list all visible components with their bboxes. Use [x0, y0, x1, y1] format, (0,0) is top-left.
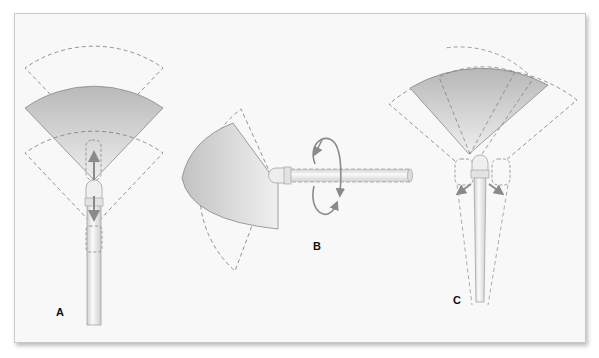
tilt-right-arrow-icon [489, 184, 500, 192]
panel-c-diagram [389, 47, 577, 305]
panel-a-label: A [56, 306, 64, 318]
panel-c-label: C [453, 294, 461, 306]
panel-b-label: B [313, 240, 321, 252]
rotation-arrow-icon [313, 138, 341, 193]
endoscope-motion-diagram [0, 0, 599, 358]
tilt-left-arrow-icon [460, 184, 471, 192]
panel-a-diagram [25, 46, 163, 325]
panel-b-diagram [182, 109, 413, 271]
rotation-arrow-return-icon [313, 186, 336, 214]
